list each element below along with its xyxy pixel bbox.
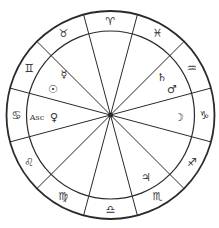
- sign-capricorn-icon: ♑︎: [200, 109, 210, 122]
- planet-saturn-icon: ♄︎: [157, 71, 167, 84]
- house-cusp-line: [111, 41, 185, 115]
- sign-cancer-icon: ♋︎: [12, 109, 22, 122]
- house-cusp-line: [84, 115, 111, 215]
- astrology-wheel: ♈︎♓︎♒︎♑︎♐︎♏︎♎︎♍︎♌︎♋︎♊︎♉︎ ☿︎☉︎♄︎♂︎☽︎♀︎♃︎ …: [0, 0, 219, 228]
- house-cusp-line: [111, 15, 138, 115]
- sign-leo-icon: ♌︎: [24, 156, 34, 169]
- sign-sagittarius-icon: ♐︎: [187, 156, 197, 169]
- planet-sun-icon: ☉︎: [48, 83, 58, 96]
- sign-taurus-icon: ♉︎: [59, 27, 69, 40]
- house-cusp-line: [111, 115, 138, 215]
- house-cusp-line: [37, 41, 111, 115]
- planet-venus-icon: ♀︎: [50, 111, 58, 124]
- planet-moon-icon: ☽︎: [174, 111, 184, 124]
- house-cusp-line: [10, 115, 110, 142]
- sign-libra-icon: ♎︎: [106, 203, 116, 216]
- planet-jupiter-icon: ♃︎: [141, 171, 151, 184]
- sign-gemini-icon: ♊︎: [24, 62, 34, 75]
- house-cusp-line: [111, 115, 211, 142]
- sign-virgo-icon: ♍︎: [59, 190, 69, 203]
- sign-pisces-icon: ♓︎: [153, 27, 163, 40]
- sign-aquarius-icon: ♒︎: [187, 62, 197, 75]
- planets: ☿︎☉︎♄︎♂︎☽︎♀︎♃︎: [48, 68, 184, 184]
- house-cusp-line: [10, 88, 110, 115]
- planet-mercury-icon: ☿︎: [61, 68, 68, 81]
- sign-aries-icon: ♈︎: [106, 15, 116, 28]
- center-hub: [108, 113, 113, 118]
- house-cusp-line: [111, 88, 211, 115]
- house-cusp-line: [84, 15, 111, 115]
- ascendant-label: Asc: [29, 113, 45, 122]
- sign-scorpio-icon: ♏︎: [153, 190, 163, 203]
- house-cusp-line: [37, 115, 111, 189]
- planet-mars-icon: ♂︎: [167, 83, 177, 96]
